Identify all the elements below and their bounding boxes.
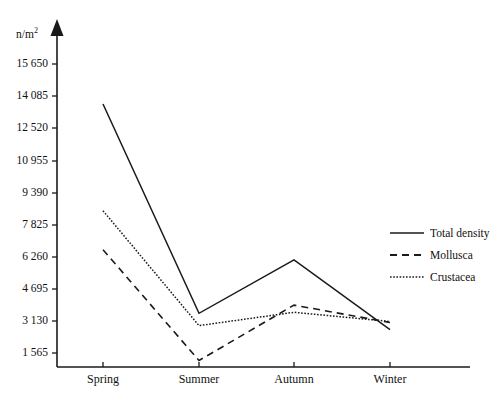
x-axis-tick-label-winter: Winter <box>350 373 430 385</box>
y-axis-tick-label: 3 130 <box>0 315 48 327</box>
x-axis-tick-label-autumn: Autumn <box>254 373 334 385</box>
y-axis-tick-label: 6 260 <box>0 251 48 263</box>
y-axis-tick-label: 12 520 <box>0 122 48 134</box>
x-axis-tick-label-summer: Summer <box>159 373 239 385</box>
chart-canvas <box>0 0 503 410</box>
y-axis-tick-label: 14 085 <box>0 90 48 102</box>
y-axis-tick-label: 10 955 <box>0 155 48 167</box>
legend-swatch-dashed-icon <box>390 250 424 260</box>
series-line-crustacea <box>103 211 390 326</box>
legend-swatch-solid-icon <box>390 228 424 238</box>
y-axis-tick-label: 4 695 <box>0 283 48 295</box>
y-axis-tick-label: 15 650 <box>0 58 48 70</box>
series-line-total-density <box>103 104 390 330</box>
legend-label-mollusca: Mollusca <box>430 249 473 261</box>
legend-label-crustacea: Crustacea <box>430 271 475 283</box>
y-axis-tick-label: 9 390 <box>0 187 48 199</box>
legend-swatch-dotted-icon <box>390 272 424 282</box>
legend-label-total-density: Total density <box>430 227 490 239</box>
line-chart: n/m2 15 65014 08512 52010 955 <box>0 0 503 410</box>
legend-item-total-density: Total density <box>390 222 502 244</box>
y-axis-tick-label: 7 825 <box>0 219 48 231</box>
x-axis-tick-label-spring: Spring <box>63 373 143 385</box>
series-line-mollusca <box>103 250 390 361</box>
chart-legend: Total density Mollusca Crustacea <box>390 222 502 288</box>
y-axis-tick-label: 1 565 <box>0 347 48 359</box>
legend-item-crustacea: Crustacea <box>390 266 502 288</box>
legend-item-mollusca: Mollusca <box>390 244 502 266</box>
